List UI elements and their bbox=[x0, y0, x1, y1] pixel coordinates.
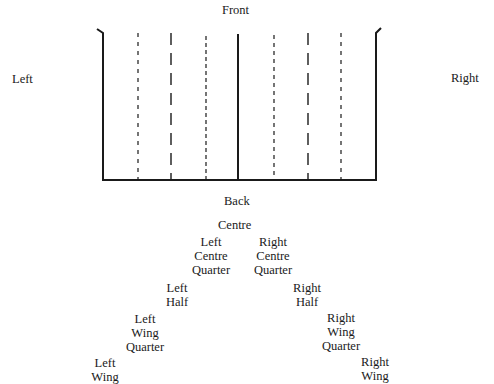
position-line: Wing bbox=[120, 326, 170, 340]
position-right-half: Right Half bbox=[287, 281, 327, 309]
position-line: Right bbox=[248, 235, 298, 249]
position-line: Left bbox=[157, 281, 197, 295]
position-centre: Centre bbox=[218, 218, 251, 232]
position-line: Quarter bbox=[248, 263, 298, 277]
position-line: Wing bbox=[89, 370, 121, 384]
position-right-centre-quarter: Right Centre Quarter bbox=[248, 235, 298, 277]
position-right-wing-quarter: Right Wing Quarter bbox=[316, 311, 366, 353]
position-line: Centre bbox=[186, 249, 236, 263]
position-line: Right bbox=[316, 311, 366, 325]
position-line: Left bbox=[89, 356, 121, 370]
right-label: Right bbox=[451, 71, 479, 85]
position-line: Centre bbox=[248, 249, 298, 263]
back-label: Back bbox=[224, 194, 250, 208]
position-line: Left bbox=[186, 235, 236, 249]
position-line: Quarter bbox=[120, 340, 170, 354]
position-line: Wing bbox=[355, 369, 395, 383]
left-label: Left bbox=[12, 72, 33, 86]
position-line: Wing bbox=[316, 325, 366, 339]
position-line: Right bbox=[355, 355, 395, 369]
position-left-wing-quarter: Left Wing Quarter bbox=[120, 312, 170, 354]
position-line: Quarter bbox=[186, 263, 236, 277]
position-line: Quarter bbox=[316, 339, 366, 353]
front-label: Front bbox=[222, 3, 249, 17]
position-line: Half bbox=[287, 295, 327, 309]
position-left-wing: Left Wing bbox=[89, 356, 121, 384]
position-line: Half bbox=[157, 295, 197, 309]
position-line: Right bbox=[287, 281, 327, 295]
position-right-wing: Right Wing bbox=[355, 355, 395, 383]
position-line: Left bbox=[120, 312, 170, 326]
position-line: Centre bbox=[218, 218, 251, 232]
position-left-centre-quarter: Left Centre Quarter bbox=[186, 235, 236, 277]
position-left-half: Left Half bbox=[157, 281, 197, 309]
